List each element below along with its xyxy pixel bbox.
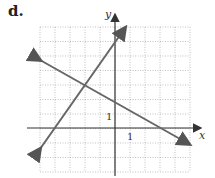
x-axis-label: x	[199, 129, 206, 142]
y-tick-1: 1	[106, 111, 112, 122]
y-axis-label: y	[104, 8, 112, 21]
x-tick-1: 1	[127, 131, 133, 142]
coordinate-plane: x y 1 1	[0, 0, 215, 178]
line-1	[40, 28, 125, 149]
